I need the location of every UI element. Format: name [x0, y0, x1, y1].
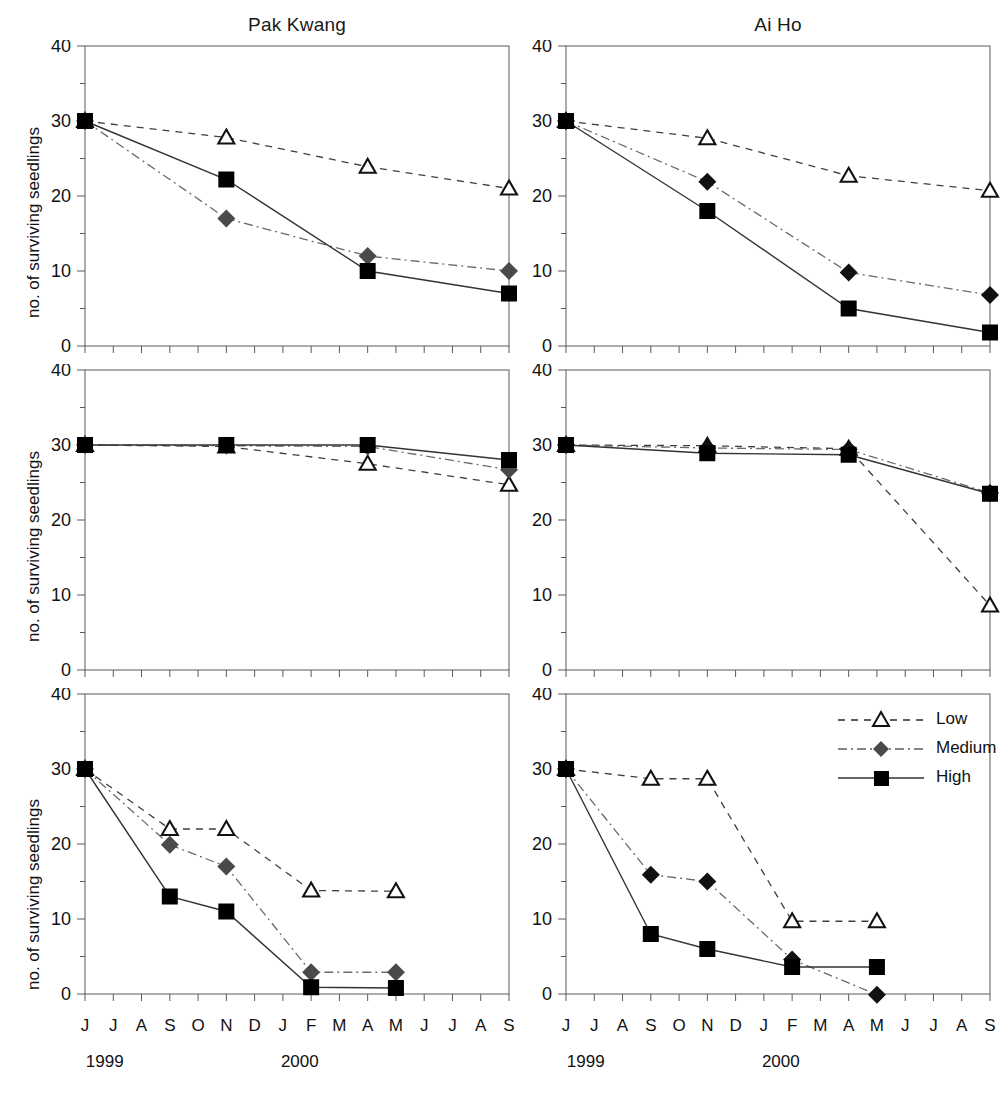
data-point-high — [558, 113, 574, 129]
x-tick-label: A — [836, 1016, 862, 1036]
data-point-high — [162, 889, 178, 905]
y-tick-label: 10 — [51, 261, 71, 281]
x-axis-ticks-ai-ho: JJASONDJFMAMJJAS — [0, 1016, 1004, 1042]
year-label-ai-ho-1999: 1999 — [546, 1052, 626, 1072]
column-title-pak-kwang: Pak Kwang — [85, 14, 509, 36]
y-tick-label: 0 — [61, 984, 71, 1004]
x-tick-label: S — [977, 1016, 1003, 1036]
x-tick-label: J — [581, 1016, 607, 1036]
x-tick-label: J — [892, 1016, 918, 1036]
data-point-high — [303, 979, 319, 995]
legend-swatch-medium — [836, 734, 928, 763]
x-tick-label: F — [779, 1016, 805, 1036]
y-tick-label: 30 — [532, 111, 552, 131]
y-tick-label: 0 — [542, 984, 552, 1004]
data-point-high — [869, 959, 885, 975]
plot-panel-row3-col1: 010203040 — [0, 688, 523, 1018]
data-point-high — [643, 926, 659, 942]
plot-frame — [566, 46, 990, 346]
data-point-high — [388, 980, 404, 996]
plot-panel-row1-col2: 010203040 — [481, 40, 1004, 370]
y-tick-label: 20 — [532, 834, 552, 854]
year-label-pak-kwang-2000: 2000 — [260, 1052, 340, 1072]
data-point-high — [360, 263, 376, 279]
y-tick-label: 20 — [532, 186, 552, 206]
data-point-high — [784, 959, 800, 975]
y-tick-label: 30 — [532, 435, 552, 455]
x-tick-label: S — [638, 1016, 664, 1036]
x-tick-label: J — [751, 1016, 777, 1036]
y-tick-label: 20 — [51, 834, 71, 854]
legend-swatch-low — [836, 705, 928, 734]
x-tick-label: J — [553, 1016, 579, 1036]
y-tick-label: 30 — [51, 111, 71, 131]
y-tick-label: 40 — [532, 688, 552, 704]
y-tick-label: 30 — [532, 759, 552, 779]
data-point-high — [558, 437, 574, 453]
x-tick-label: N — [694, 1016, 720, 1036]
data-point-high — [841, 447, 857, 463]
y-tick-label: 40 — [532, 364, 552, 380]
y-tick-label: 30 — [51, 759, 71, 779]
y-tick-label: 0 — [61, 336, 71, 356]
legend-swatch-high — [836, 763, 928, 792]
y-tick-label: 20 — [532, 510, 552, 530]
x-tick-label: A — [610, 1016, 636, 1036]
data-point-high — [77, 761, 93, 777]
data-point-high — [982, 486, 998, 502]
legend-label-low: Low — [936, 709, 967, 729]
plot-frame — [85, 370, 509, 670]
y-tick-label: 30 — [51, 435, 71, 455]
plot-frame — [85, 46, 509, 346]
data-point-high — [218, 904, 234, 920]
column-title-ai-ho: Ai Ho — [566, 14, 990, 36]
plot-panel-row2-col2: 010203040 — [481, 364, 1004, 694]
year-label-pak-kwang-1999: 1999 — [65, 1052, 145, 1072]
y-tick-label: 0 — [61, 660, 71, 680]
data-point-high — [360, 437, 376, 453]
y-tick-label: 40 — [51, 688, 71, 704]
data-point-high — [982, 325, 998, 341]
data-point-high — [77, 113, 93, 129]
legend-label-high: High — [936, 767, 971, 787]
x-tick-label: J — [920, 1016, 946, 1036]
y-tick-label: 0 — [542, 660, 552, 680]
y-tick-label: 40 — [51, 364, 71, 380]
data-point-high — [218, 437, 234, 453]
data-point-high — [699, 941, 715, 957]
y-tick-label: 10 — [532, 261, 552, 281]
data-point-high — [558, 761, 574, 777]
y-tick-label: 10 — [532, 909, 552, 929]
y-tick-label: 10 — [532, 585, 552, 605]
year-label-ai-ho-2000: 2000 — [741, 1052, 821, 1072]
y-tick-label: 0 — [542, 336, 552, 356]
y-tick-label: 10 — [51, 585, 71, 605]
plot-panel-row2-col1: 010203040 — [0, 364, 523, 694]
data-point-high — [841, 301, 857, 317]
y-tick-label: 10 — [51, 909, 71, 929]
legend-label-medium: Medium — [936, 738, 996, 758]
x-tick-label: M — [807, 1016, 833, 1036]
x-tick-label: M — [864, 1016, 890, 1036]
plot-frame — [566, 370, 990, 670]
figure-root: Pak Kwang Ai Ho no. of surviving seedlin… — [0, 0, 1004, 1099]
plot-panel-row1-col1: 010203040 — [0, 40, 523, 370]
x-tick-label: D — [723, 1016, 749, 1036]
data-point-high — [77, 437, 93, 453]
data-point-high — [699, 445, 715, 461]
y-tick-label: 20 — [51, 186, 71, 206]
data-point-high — [218, 172, 234, 188]
x-tick-label: A — [949, 1016, 975, 1036]
y-tick-label: 20 — [51, 510, 71, 530]
data-point-high — [699, 203, 715, 219]
y-tick-label: 40 — [532, 40, 552, 56]
plot-frame — [85, 694, 509, 994]
x-tick-label: O — [666, 1016, 692, 1036]
y-tick-label: 40 — [51, 40, 71, 56]
